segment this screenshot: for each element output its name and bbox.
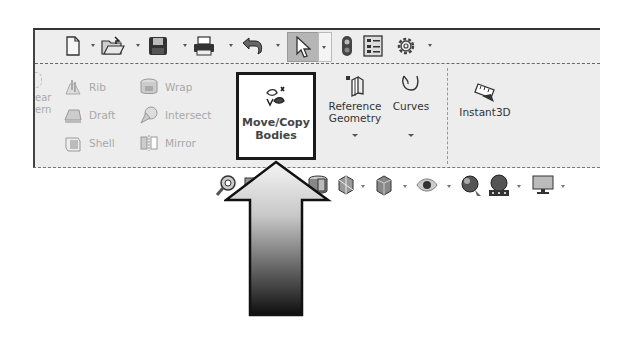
rib-button[interactable]: Rib: [63, 76, 106, 98]
save-icon: [148, 36, 168, 56]
move-copy-bodies-label: Move/Copy Bodies: [239, 116, 313, 142]
open-folder-icon: [101, 36, 125, 56]
quick-access-toolbar: [35, 30, 600, 64]
mirror-button[interactable]: Mirror: [139, 132, 196, 154]
save-dropdown[interactable]: [183, 44, 187, 47]
file-properties-button[interactable]: [363, 34, 383, 58]
file-properties-icon: [363, 35, 383, 57]
edit-appearance-icon[interactable]: [459, 174, 483, 198]
wrap-button[interactable]: Wrap: [139, 76, 192, 98]
save-button[interactable]: [148, 34, 168, 58]
new-document-dropdown[interactable]: [91, 44, 95, 47]
curves-button[interactable]: Curves: [389, 74, 433, 137]
partial-linear-pattern-label[interactable]: ear ern: [35, 92, 51, 116]
select-dropdown[interactable]: [318, 32, 332, 62]
draft-icon: [63, 106, 83, 124]
reference-geometry-button[interactable]: Reference Geometry: [323, 74, 387, 137]
shell-button[interactable]: Shell: [63, 132, 115, 154]
draft-button[interactable]: Draft: [63, 104, 115, 126]
instant3d-icon: [472, 82, 498, 104]
undo-button[interactable]: [241, 34, 265, 58]
curves-icon: [400, 74, 422, 98]
hide-show-items-icon[interactable]: [415, 174, 439, 196]
print-dropdown[interactable]: [229, 44, 233, 47]
instant3d-button[interactable]: Instant3D: [455, 82, 515, 118]
shell-icon: [63, 134, 83, 152]
print-icon: [193, 36, 215, 56]
hide-show-items-dropdown[interactable]: [447, 185, 451, 188]
curves-dropdown[interactable]: [408, 134, 414, 137]
open-dropdown[interactable]: [136, 44, 140, 47]
intersect-button[interactable]: Intersect: [139, 104, 211, 126]
apply-scene-dropdown[interactable]: [517, 185, 521, 188]
move-copy-bodies-button[interactable]: Move/Copy Bodies: [236, 72, 316, 160]
traffic-light-icon: [341, 35, 353, 57]
undo-dropdown[interactable]: [276, 44, 280, 47]
print-button[interactable]: [193, 34, 215, 58]
new-document-icon: [65, 36, 81, 56]
rib-icon: [63, 78, 83, 96]
view-orientation-dropdown[interactable]: [361, 185, 365, 188]
move-copy-bodies-icon: [263, 85, 289, 109]
view-settings-icon[interactable]: [531, 174, 555, 196]
partial-pattern-icon: [35, 72, 42, 88]
features-ribbon: ear ern Rib Draft Shell Wrap Intersect M…: [35, 64, 600, 166]
options-button[interactable]: [395, 34, 417, 58]
view-orientation-icon[interactable]: [335, 174, 357, 196]
reference-geometry-dropdown[interactable]: [352, 134, 358, 137]
undo-icon: [241, 36, 265, 56]
apply-scene-icon[interactable]: [487, 174, 511, 198]
wrap-icon: [139, 78, 159, 96]
reference-geometry-icon: [344, 74, 366, 98]
rebuild-button[interactable]: [341, 34, 353, 58]
open-button[interactable]: [101, 34, 125, 58]
new-document-button[interactable]: [65, 34, 81, 58]
display-style-icon[interactable]: [373, 174, 395, 196]
command-manager-panel: ear ern Rib Draft Shell Wrap Intersect M…: [33, 28, 600, 168]
select-button[interactable]: [287, 32, 319, 62]
mirror-icon: [139, 134, 159, 152]
ribbon-separator: [447, 68, 448, 164]
callout-arrow-icon: [224, 160, 332, 320]
view-settings-dropdown[interactable]: [561, 185, 565, 188]
intersect-icon: [139, 106, 159, 124]
select-cursor-icon: [295, 36, 311, 58]
display-style-dropdown[interactable]: [403, 185, 407, 188]
options-dropdown[interactable]: [428, 44, 432, 47]
gear-icon: [395, 35, 417, 57]
